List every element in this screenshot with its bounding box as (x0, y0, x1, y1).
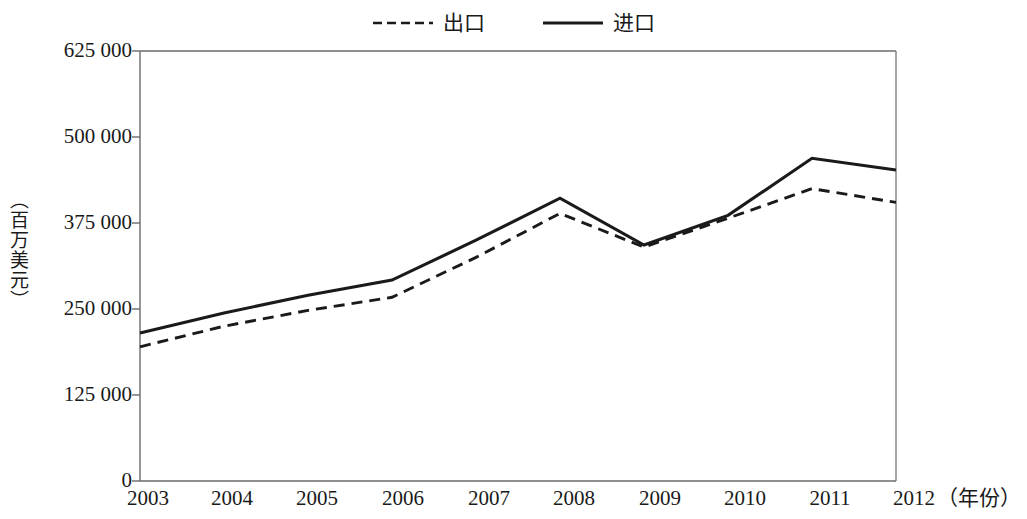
x-tick-2006: 2006 (382, 486, 424, 510)
plot-area (0, 0, 1027, 519)
x-tick-2004: 2004 (211, 486, 253, 510)
line-chart: 出口 进口 （百万美元） 0 125 000 250 000 375 000 5… (0, 0, 1027, 519)
x-tick-2005: 2005 (296, 486, 338, 510)
x-tick-2012: 2012 (893, 486, 935, 510)
x-axis-unit-label: （年份） (937, 486, 1021, 510)
series-line-imports (140, 158, 896, 333)
x-tick-2009: 2009 (639, 486, 681, 510)
x-tick-2008: 2008 (553, 486, 595, 510)
x-tick-2011: 2011 (809, 486, 850, 510)
x-tick-2010: 2010 (724, 486, 766, 510)
x-axis-ticks: 2003 2004 2005 2006 2007 2008 2009 2010 … (0, 486, 1027, 519)
y-tick-marks (132, 51, 140, 481)
x-tick-2003: 2003 (127, 486, 169, 510)
series-line-exports (140, 189, 896, 347)
x-tick-2007: 2007 (468, 486, 510, 510)
